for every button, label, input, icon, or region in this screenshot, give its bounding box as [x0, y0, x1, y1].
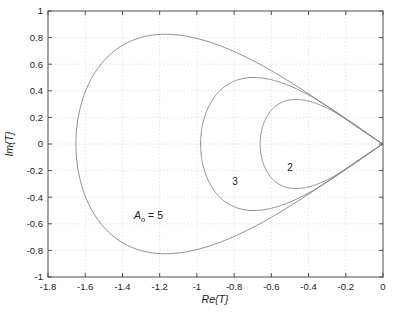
nyquist-plot: -1.8-1.6-1.4-1.2-1-0.8-0.6-0.4-0.20 -1-0… — [0, 0, 402, 322]
x-axis-title: Re{T} — [202, 293, 229, 305]
y-tick-label: -0.8 — [27, 245, 43, 256]
y-tick-label: 0.4 — [30, 85, 43, 96]
y-tick-label: -0.2 — [27, 165, 43, 176]
y-tick-label: 0.6 — [30, 59, 43, 70]
y-tick-label: 0.8 — [30, 32, 43, 43]
curve-label-3: 3 — [232, 176, 238, 187]
y-tick-label: 0 — [38, 138, 43, 149]
y-tick-label: 1 — [38, 5, 43, 16]
x-tick-label: 0 — [380, 281, 385, 292]
curve-label-2: 2 — [287, 162, 293, 173]
x-tick-label: -0.4 — [300, 281, 316, 292]
y-tick-label: -0.4 — [27, 192, 43, 203]
x-tick-label: -0.2 — [338, 281, 354, 292]
y-axis-title: Im{T} — [3, 131, 15, 157]
x-tick-label: -0.6 — [263, 281, 279, 292]
figure-canvas: -1.8-1.6-1.4-1.2-1-0.8-0.6-0.4-0.20 -1-0… — [0, 0, 402, 322]
y-tick-label: -0.6 — [27, 218, 43, 229]
x-tick-label: -1.4 — [114, 281, 130, 292]
x-tick-label: -1.2 — [151, 281, 167, 292]
x-tick-label: -1.6 — [77, 281, 93, 292]
x-tick-label: -1.8 — [40, 281, 56, 292]
y-tick-label: 0.2 — [30, 112, 43, 123]
x-tick-label: -0.8 — [226, 281, 242, 292]
x-tick-label: -1 — [193, 281, 201, 292]
y-tick-label: -1 — [35, 271, 43, 282]
